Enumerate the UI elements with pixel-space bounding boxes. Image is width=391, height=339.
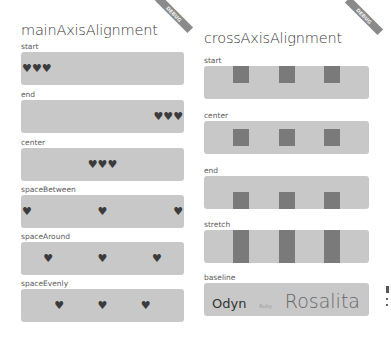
square-item xyxy=(324,66,340,83)
stretched-item xyxy=(233,230,249,263)
debug-banner: DEBUG xyxy=(345,0,383,35)
row-label-stretch: stretch xyxy=(204,220,230,229)
baseline-word-odyn: Odyn xyxy=(212,296,246,311)
row-box-space-between: ♥ ♥ ♥ xyxy=(21,195,184,228)
baseline-word-ruby: Ruby xyxy=(259,303,272,309)
row-label-end: end xyxy=(204,166,218,175)
heart-icon: ♥ xyxy=(98,206,108,217)
heart-icon: ♥ xyxy=(98,159,108,170)
row-label-start: start xyxy=(21,42,38,51)
heart-icon: ♥ xyxy=(32,63,42,74)
square-item xyxy=(233,66,249,83)
heart-icon: ♥ xyxy=(173,111,183,122)
square-item xyxy=(233,192,249,209)
heart-icon: ♥ xyxy=(173,206,183,217)
page-title: mainAxisAlignment xyxy=(21,22,158,38)
row-label-center: center xyxy=(21,138,45,147)
heart-icon: ♥ xyxy=(54,300,64,311)
debug-banner: DEBUG xyxy=(155,0,193,33)
heart-icon: ♥ xyxy=(153,111,163,122)
row-box-space-around: ♥ ♥ ♥ xyxy=(21,242,184,275)
row-box-stretch xyxy=(204,230,369,263)
edge-fragment xyxy=(386,304,388,306)
heart-icon: ♥ xyxy=(98,253,108,264)
row-box-space-evenly: ♥ ♥ ♥ xyxy=(21,289,184,322)
row-box-baseline: Odyn Ruby Rosalita xyxy=(204,283,369,316)
heart-icon: ♥ xyxy=(88,159,98,170)
heart-icon: ♥ xyxy=(152,253,162,264)
row-label-space-around: spaceAround xyxy=(21,232,70,241)
square-item xyxy=(279,192,295,209)
baseline-word-rosalita: Rosalita xyxy=(285,290,360,312)
row-box-start xyxy=(204,66,369,99)
row-box-start: ♥ ♥ ♥ xyxy=(21,52,184,85)
heart-icon: ♥ xyxy=(42,63,52,74)
row-label-end: end xyxy=(21,90,35,99)
heart-icon: ♥ xyxy=(107,159,117,170)
row-label-start: start xyxy=(204,56,221,65)
square-item xyxy=(324,129,340,146)
heart-icon: ♥ xyxy=(141,300,151,311)
square-item xyxy=(324,192,340,209)
row-box-end: ♥ ♥ ♥ xyxy=(21,100,184,133)
heart-icon: ♥ xyxy=(43,253,53,264)
square-item xyxy=(279,66,295,83)
page-title: crossAxisAlignment xyxy=(204,30,342,46)
edge-fragment xyxy=(386,286,389,293)
row-box-center xyxy=(204,121,369,154)
square-item xyxy=(279,129,295,146)
row-label-space-evenly: spaceEvenly xyxy=(21,279,68,288)
stretched-item xyxy=(279,230,295,263)
square-item xyxy=(233,129,249,146)
heart-icon: ♥ xyxy=(163,111,173,122)
heart-icon: ♥ xyxy=(22,63,32,74)
row-label-baseline: baseline xyxy=(204,273,235,282)
row-label-center: center xyxy=(204,111,228,120)
row-box-end xyxy=(204,176,369,209)
row-box-center: ♥ ♥ ♥ xyxy=(21,148,184,181)
row-label-space-between: spaceBetween xyxy=(21,185,76,194)
heart-icon: ♥ xyxy=(22,206,32,217)
heart-icon: ♥ xyxy=(98,300,108,311)
edge-fragment xyxy=(386,298,388,300)
stretched-item xyxy=(324,230,340,263)
